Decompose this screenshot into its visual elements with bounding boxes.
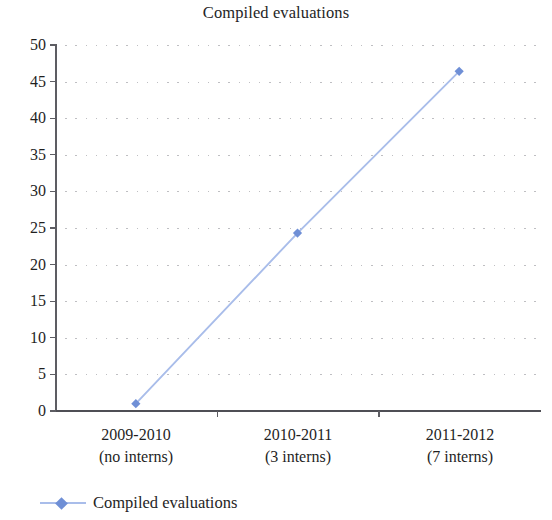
x-axis-label-1-line2: (3 interns) (217, 446, 379, 468)
x-axis-label-1-line1: 2010-2011 (264, 426, 333, 443)
x-axis-label-0-line2: (no interns) (55, 446, 217, 468)
x-axis-label-1: 2010-2011 (3 interns) (217, 424, 379, 476)
x-axis-label-0: 2009-2010 (no interns) (55, 424, 217, 476)
legend-label-compiled-evaluations: Compiled evaluations (93, 493, 237, 513)
diamond-marker-icon (55, 497, 68, 510)
x-axis-label-2-line1: 2011-2012 (426, 426, 495, 443)
x-axis-label-2: 2011-2012 (7 interns) (379, 424, 541, 476)
x-axis-label-0-line1: 2009-2010 (101, 426, 170, 443)
x-axis-label-2-line2: (7 interns) (379, 446, 541, 468)
chart-legend: Compiled evaluations (0, 489, 552, 517)
legend-swatch-compiled-evaluations (40, 496, 86, 510)
chart-figure: Compiled evaluations 0510152025303540455… (0, 0, 552, 520)
x-axis-category-labels: 2009-2010 (no interns) 2010-2011 (3 inte… (55, 424, 541, 476)
